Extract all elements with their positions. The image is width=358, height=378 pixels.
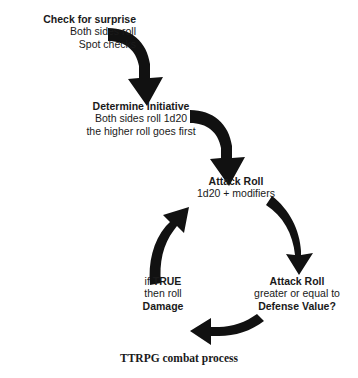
node-heading: Check for surprise	[8, 13, 136, 25]
node-line: then roll	[124, 287, 202, 299]
node-line: Both sides roll	[8, 25, 136, 37]
node-line: Defense Value?	[240, 300, 354, 312]
arrow-layer	[0, 0, 358, 378]
node-line: Spot checks	[8, 38, 136, 50]
node-if-true-damage: if TRUE then roll Damage	[124, 275, 202, 312]
node-line: Both sides roll 1d20	[66, 112, 216, 124]
diagram-caption: TTRPG combat process	[0, 352, 358, 364]
node-attack-roll: Attack Roll 1d20 + modifiers	[180, 175, 292, 200]
if-prefix: if	[145, 275, 153, 287]
arrow-check-to-true-icon	[190, 314, 264, 345]
node-heading: Attack Roll	[180, 175, 292, 187]
node-determine-initiative: Determine Initiative Both sides roll 1d2…	[66, 100, 216, 137]
node-line: greater or equal to	[240, 287, 354, 299]
diagram-canvas: Check for surprise Both sides roll Spot …	[0, 0, 358, 378]
arrow-true-to-attack-icon	[150, 207, 189, 285]
arrow-attack-to-check-icon	[266, 196, 313, 275]
node-line: the higher roll goes first	[66, 125, 216, 137]
node-heading: Attack Roll	[240, 275, 354, 287]
node-line: Damage	[124, 300, 202, 312]
node-line: 1d20 + modifiers	[180, 187, 292, 199]
node-heading: Determine Initiative	[66, 100, 216, 112]
node-attack-roll-check: Attack Roll greater or equal to Defense …	[240, 275, 354, 312]
node-check-for-surprise: Check for surprise Both sides roll Spot …	[8, 13, 136, 50]
node-line-if-true: if TRUE	[124, 275, 202, 287]
true-keyword: TRUE	[153, 275, 182, 287]
